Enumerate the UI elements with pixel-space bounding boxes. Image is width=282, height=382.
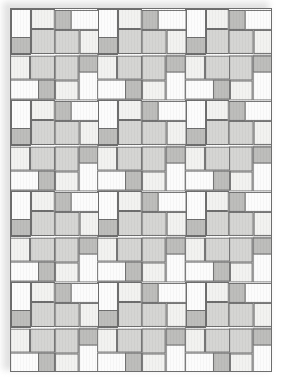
quilt-strip <box>141 30 166 54</box>
quilt-strip <box>97 55 117 79</box>
quilt-strip <box>229 55 253 80</box>
quilt-strip <box>10 237 30 261</box>
quilt-strip <box>78 328 98 345</box>
quilt-strip <box>142 353 166 372</box>
quilt-quadrant <box>98 191 142 237</box>
quilt-quadrant <box>97 328 143 372</box>
quilt-strip <box>38 261 55 281</box>
quilt-quadrant <box>98 9 142 55</box>
quilt-strip <box>31 302 55 327</box>
quilt-strip <box>118 9 142 29</box>
quilt-quadrant <box>55 146 99 192</box>
quilt-strip <box>117 146 142 170</box>
quilt-strip <box>228 192 245 212</box>
quilt-strip <box>11 310 31 327</box>
quilt-strip <box>118 29 142 54</box>
quilt-strip <box>206 29 230 54</box>
quilt-strip <box>98 310 118 327</box>
quilt-strip <box>79 121 99 145</box>
quilt-quadrant <box>186 282 230 328</box>
quilt-strip <box>206 100 230 120</box>
quilt-strip <box>229 146 253 171</box>
quilt-quadrant <box>228 10 272 54</box>
quilt-quadrant <box>141 283 187 327</box>
quilt-strip <box>253 328 272 345</box>
quilt-strip <box>98 37 118 54</box>
quilt-strip <box>31 100 55 120</box>
quilt-quadrant <box>142 328 186 373</box>
quilt-strip <box>126 352 143 372</box>
quilt-quadrant <box>97 55 143 99</box>
quilt-strip <box>118 211 142 236</box>
quilt-strip <box>55 328 79 353</box>
quilt-strip <box>141 192 158 212</box>
quilt-strip <box>54 30 79 54</box>
quilt-quadrant <box>141 101 187 145</box>
quilt-quadrant <box>185 146 231 190</box>
quilt-quadrant <box>185 237 231 281</box>
quilt-quadrant <box>10 328 56 372</box>
quilt-strip <box>97 237 117 261</box>
quilt-strip <box>142 328 166 353</box>
quilt-strip <box>253 55 272 72</box>
quilt-strip <box>10 146 30 170</box>
quilt-strip <box>79 212 99 236</box>
quilt-strip <box>229 328 253 353</box>
quilt-strip <box>254 212 272 236</box>
quilt-quadrant <box>11 191 55 237</box>
quilt-quadrant <box>54 10 100 54</box>
quilt-quadrant <box>228 101 272 145</box>
quilt-strip <box>55 171 79 191</box>
quilt-strip <box>228 10 245 30</box>
quilt-quadrant <box>97 146 143 190</box>
quilt-quadrant <box>11 282 55 328</box>
quilt-strip <box>31 282 55 302</box>
quilt-strip <box>78 146 98 163</box>
quilt-quadrant <box>54 101 100 145</box>
quilt-strip <box>186 128 206 145</box>
quilt-strip <box>254 121 272 145</box>
quilt-strip <box>141 10 158 30</box>
quilt-quadrant <box>185 55 231 99</box>
quilt-block <box>11 9 98 100</box>
quilt-strip <box>126 261 143 281</box>
quilt-strip <box>141 283 158 303</box>
quilt-strip <box>78 55 98 72</box>
quilt-strip <box>206 302 230 327</box>
quilt-block <box>186 9 272 100</box>
quilt-strip <box>206 120 230 145</box>
quilt-strip <box>38 352 55 372</box>
quilt-strip <box>31 191 55 211</box>
quilt-strip <box>117 328 142 352</box>
quilt-diagram-canvas <box>0 0 282 382</box>
quilt-quadrant <box>185 328 231 372</box>
quilt-strip <box>228 303 253 327</box>
quilt-strip <box>213 261 230 281</box>
quilt-quadrant <box>142 55 186 101</box>
quilt-strip <box>213 170 230 190</box>
quilt-quadrant <box>98 282 142 328</box>
quilt-strip <box>142 146 166 171</box>
quilt-strip <box>228 121 253 145</box>
quilt-quadrant <box>98 100 142 146</box>
quilt-strip <box>254 30 272 54</box>
quilt-strip <box>31 120 55 145</box>
quilt-quadrant <box>228 192 272 236</box>
quilt-block <box>98 191 185 282</box>
quilt-strip <box>11 128 31 145</box>
quilt-strip <box>97 328 117 352</box>
quilt-strip <box>142 237 166 262</box>
quilt-strip <box>141 121 166 145</box>
quilt-quadrant <box>55 237 99 283</box>
quilt-strip <box>141 101 158 121</box>
quilt-strip <box>31 9 55 29</box>
quilt-strip <box>167 30 187 54</box>
quilt-strip <box>117 237 142 261</box>
quilt-block <box>98 9 185 100</box>
quilt-strip <box>205 237 230 261</box>
quilt-strip <box>38 79 55 99</box>
quilt-strip <box>38 170 55 190</box>
quilt-strip <box>54 283 71 303</box>
quilt-quadrant <box>55 55 99 101</box>
quilt-strip <box>142 80 166 100</box>
